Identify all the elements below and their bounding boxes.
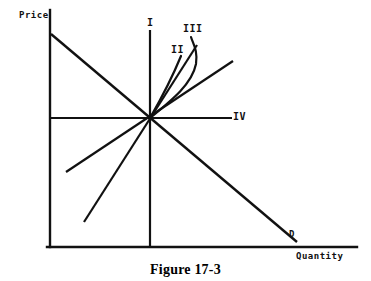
- diagram-canvas: [0, 0, 371, 281]
- y-axis-label: Price: [19, 11, 49, 20]
- curve-iii-label: III: [183, 24, 203, 34]
- curve-ii-path: [150, 56, 181, 118]
- curve-iv-label: IV: [233, 112, 246, 122]
- curve-ii-label: II: [171, 45, 184, 55]
- figure-container: Price Quantity I II III IV D Figure 17-3: [0, 0, 371, 281]
- figure-caption: Figure 17-3: [0, 262, 371, 278]
- demand-curve-line: [51, 34, 297, 242]
- demand-curve-label: D: [289, 230, 295, 239]
- supply-steep-line: [84, 45, 197, 222]
- x-axis-label: Quantity: [296, 252, 343, 261]
- curve-i-label: I: [147, 18, 154, 28]
